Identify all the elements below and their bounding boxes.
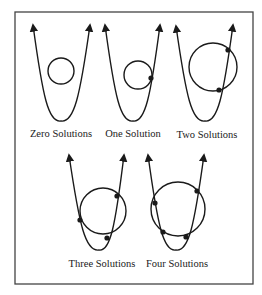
circle-shape	[124, 61, 152, 89]
label-two-solutions: Two Solutions	[177, 129, 238, 140]
figure: Zero Solutions One Solution Two Solution…	[0, 0, 262, 295]
intersection-point	[104, 235, 109, 240]
intersection-point	[216, 87, 221, 92]
parabola-curve	[33, 25, 90, 121]
circle-shape	[48, 58, 74, 84]
panel-one	[105, 25, 160, 121]
intersection-point	[152, 200, 157, 205]
panel-two	[176, 25, 237, 121]
label-one-solution: One Solution	[105, 128, 161, 139]
diagram-canvas	[0, 0, 262, 295]
intersection-point	[225, 47, 230, 52]
figure-frame	[15, 12, 253, 284]
intersection-point	[114, 193, 119, 198]
intersection-point	[148, 75, 153, 80]
panel-zero	[33, 25, 90, 121]
intersection-point	[183, 234, 188, 239]
panel-four	[148, 155, 205, 250]
label-zero-solutions: Zero Solutions	[30, 128, 92, 139]
panel-three	[69, 155, 126, 250]
label-three-solutions: Three Solutions	[69, 258, 136, 269]
intersection-point	[160, 229, 165, 234]
intersection-point	[194, 188, 199, 193]
label-four-solutions: Four Solutions	[146, 258, 208, 269]
parabola-curve	[69, 155, 124, 250]
parabola-curve	[176, 25, 233, 121]
intersection-point	[77, 217, 82, 222]
